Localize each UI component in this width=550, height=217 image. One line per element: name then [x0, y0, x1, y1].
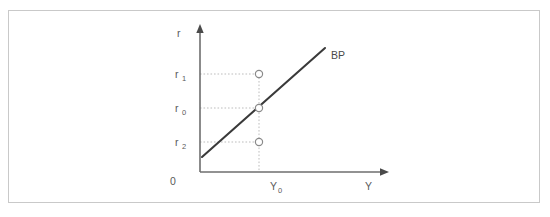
data-point-r0	[255, 104, 262, 111]
data-point-r1	[255, 70, 262, 77]
bp-curve-chart: r Y 0 r 1 r 0 r 2 Y 0 BP	[0, 0, 550, 217]
origin-label: 0	[170, 175, 176, 187]
y-tick-r2-subscript: 2	[182, 142, 186, 151]
y-tick-r1-subscript: 1	[182, 74, 186, 83]
x-tick-y0: Y 0	[270, 180, 282, 195]
y-axis-label: r	[177, 27, 181, 39]
screenshot-root: r Y 0 r 1 r 0 r 2 Y 0 BP	[0, 0, 550, 217]
y-tick-r0-subscript: 0	[182, 108, 186, 117]
bp-curve-line	[202, 48, 325, 157]
x-axis-label: Y	[365, 180, 372, 192]
y-tick-r2-base: r	[175, 136, 179, 148]
y-tick-r1: r 1	[175, 68, 186, 83]
y-tick-r2: r 2	[175, 136, 186, 151]
y-tick-r0: r 0	[175, 102, 186, 117]
y-axis-arrowhead	[196, 24, 203, 33]
data-point-r2	[255, 138, 262, 145]
bp-curve-label: BP	[331, 49, 345, 61]
y-tick-r1-base: r	[175, 68, 179, 80]
x-axis-arrowhead	[380, 168, 389, 175]
x-tick-y0-subscript: 0	[278, 186, 282, 195]
x-tick-y0-base: Y	[270, 180, 277, 192]
y-tick-r0-base: r	[175, 102, 179, 114]
